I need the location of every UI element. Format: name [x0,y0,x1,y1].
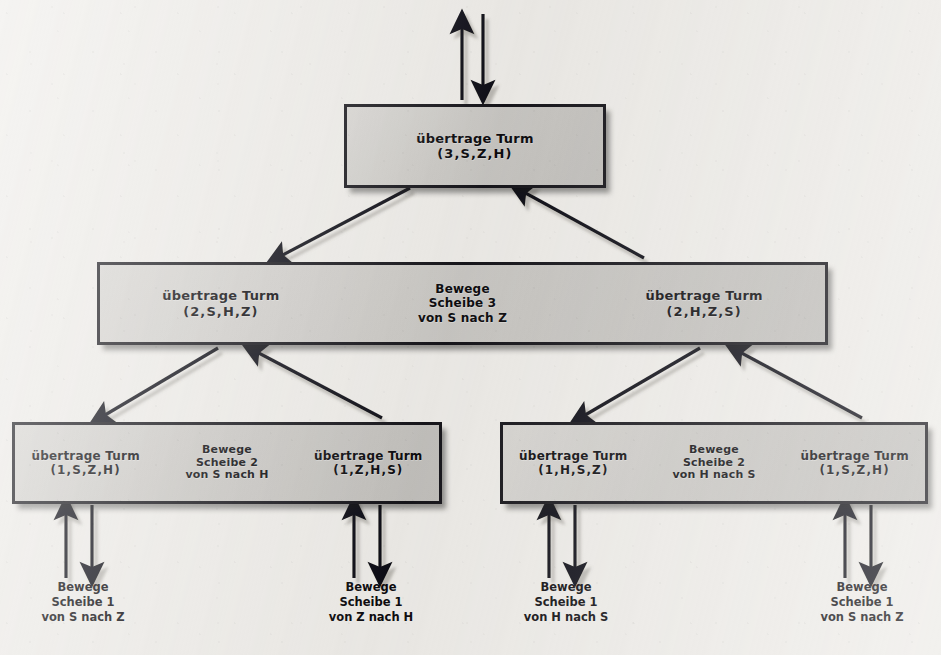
leaf-4-arrow-pair [845,505,871,578]
root-to-level1-arrows [277,188,644,258]
node-level2-right-call-b: übertrage Turm (1,S,Z,H) [784,449,925,477]
leaf-3-arrow-pair [549,505,575,578]
node-level1-move: Bewege Scheibe 3 von S nach Z [342,282,584,324]
node-level2-left-call-a: übertrage Turm (1,S,Z,H) [15,449,156,477]
leaf-2-arrow-pair [354,505,380,578]
node-level2-right-call-a: übertrage Turm (1,H,S,Z) [503,449,644,477]
node-root-call: übertrage Turm (3,S,Z,H) [347,131,603,162]
leaf-1-arrow-pair [66,505,92,578]
top-entry-exit-arrows [462,14,483,100]
recursion-tree-diagram: übertrage Turm (3,S,Z,H) übertrage Turm … [0,0,941,655]
node-root[interactable]: übertrage Turm (3,S,Z,H) [344,104,606,188]
leaf-3: Bewege Scheibe 1 von H nach S [491,580,641,625]
leaf-4: Bewege Scheibe 1 von S nach Z [787,580,937,625]
node-level2-left-call-b: übertrage Turm (1,Z,H,S) [298,449,439,477]
node-level1-right-call: übertrage Turm (2,H,Z,S) [583,288,825,319]
node-level2-right-move: Bewege Scheibe 2 von H nach S [644,444,785,483]
node-level1-left-call: übertrage Turm (2,S,H,Z) [100,288,342,319]
level1-right-to-level2-arrows [580,348,862,418]
node-level2-right[interactable]: übertrage Turm (1,H,S,Z) Bewege Scheibe … [500,422,928,504]
leaf-2: Bewege Scheibe 1 von Z nach H [296,580,446,625]
node-level1[interactable]: übertrage Turm (2,S,H,Z) Bewege Scheibe … [97,262,828,345]
level1-left-to-level2-arrows [100,348,382,418]
node-level2-left[interactable]: übertrage Turm (1,S,Z,H) Bewege Scheibe … [12,422,442,504]
node-level2-left-move: Bewege Scheibe 2 von S nach H [156,444,297,483]
leaf-1: Bewege Scheibe 1 von S nach Z [8,580,158,625]
